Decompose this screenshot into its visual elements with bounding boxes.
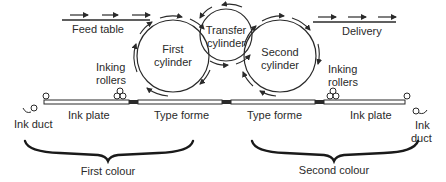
- transfer-cylinder-label-line1: Transfer: [206, 24, 247, 36]
- press-bed: [44, 100, 405, 104]
- first-cylinder-label-line2: cylinder: [154, 56, 192, 68]
- ink-duct-right-icon: [413, 108, 427, 114]
- second-cylinder-label-line2: cylinder: [261, 59, 299, 71]
- ink-duct-right-label-line1: Ink: [415, 119, 430, 131]
- first-colour-brace: [25, 141, 193, 161]
- ink-duct-left-icon: [23, 105, 37, 113]
- ink-plate-right: [324, 100, 405, 104]
- type-forme-right-label: Type forme: [247, 109, 302, 121]
- ink-duct-left-label: Ink duct: [14, 118, 53, 130]
- first-cylinder-label-line1: First: [162, 43, 183, 55]
- first-colour-label: First colour: [81, 165, 136, 177]
- second-colour-brace: [252, 141, 418, 161]
- delivery-label: Delivery: [342, 25, 382, 37]
- inking-rollers-left-label-line2: rollers: [96, 74, 126, 86]
- second-cylinder-label-line1: Second: [261, 46, 298, 58]
- bed-end-roller-left: [43, 93, 49, 99]
- inking-rollers-left-label-line1: Inking: [96, 61, 125, 73]
- ink-duct-right-label-line2: duct: [411, 132, 432, 144]
- inking-rollers-left-icon: [114, 88, 126, 99]
- bed-divider: [222, 100, 231, 104]
- ink-plate-left: [44, 100, 129, 104]
- bed-divider: [315, 100, 324, 104]
- delivery-table: [313, 17, 396, 22]
- type-forme-left-label: Type forme: [154, 109, 209, 121]
- ink-plate-left-label: Ink plate: [68, 109, 110, 121]
- feed-table-label: Feed table: [72, 23, 124, 35]
- inking-rollers-right-label-line1: Inking: [328, 63, 357, 75]
- second-colour-label: Second colour: [299, 164, 370, 176]
- feed-table: [62, 15, 150, 20]
- transfer-cylinder-label-line2: cylinder: [207, 37, 245, 49]
- inking-rollers-right-label-line2: rollers: [328, 76, 358, 88]
- ink-plate-right-label: Ink plate: [350, 109, 392, 121]
- type-forme-right: [231, 100, 315, 104]
- bed-divider: [129, 100, 138, 104]
- type-forme-left: [138, 100, 222, 104]
- printing-press-diagram: Feed table Delivery First cylinder Trans…: [0, 0, 446, 182]
- bed-end-roller-right: [404, 93, 410, 99]
- inking-rollers-right-icon: [327, 88, 339, 99]
